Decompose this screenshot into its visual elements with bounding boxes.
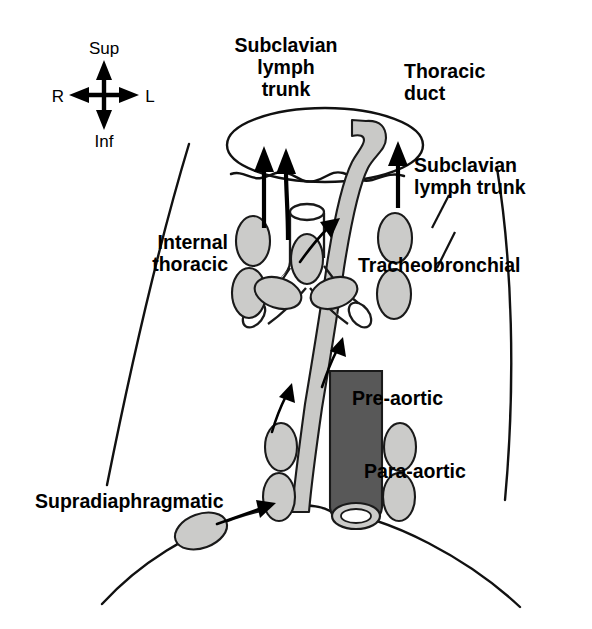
compass-inf-arrowhead [96,110,112,130]
bronchus-left-lumen [344,298,375,331]
leader-subclavian-right [432,195,449,228]
thoracic-inlet-wavy-line [231,172,404,181]
label-internal-thoracic-line2: thoracic [152,253,228,275]
label-thoracic-duct-line1: Thoracic [404,60,485,82]
label-subclavian-trunk-right-line2: lymph trunk [414,176,526,198]
trachea-lumen-top [290,204,324,220]
label-para-aortic: Para-aortic [364,460,466,482]
label-subclavian-trunk-top-line1: Subclavian [235,34,338,56]
flow-arrow-duct-ascend-lower-head [279,383,295,403]
orientation-compass: Sup Inf R L [52,39,155,151]
compass-label-superior: Sup [89,39,119,58]
aorta-lumen-inner [341,509,371,523]
thoracic-wall-right [107,144,189,485]
lymph-node-para-aortic-right-upper [265,423,297,471]
lymph-node-supradiaphragmatic [170,506,232,556]
label-supradiaphragmatic: Supradiaphragmatic [35,490,224,512]
label-thoracic-duct-line2: duct [404,82,446,104]
diaphragm-dome [102,506,520,607]
label-subclavian-trunk-top-line3: trunk [262,78,311,100]
compass-label-right: R [52,87,64,106]
lymph-node-carinal-superior [291,234,323,284]
label-tracheobronchial: Tracheobronchial [358,254,521,276]
thoracic-wall-left [497,168,511,500]
label-subclavian-trunk-top-line2: lymph [257,56,314,78]
flow-arrow-internal-thoracic-2-shaft [286,172,288,240]
compass-label-inferior: Inf [95,132,114,151]
compass-right-arrowhead [69,87,89,103]
flow-arrow-internal-thoracic-2-head [276,148,296,174]
lymph-node-tracheobronchial-lower-right [377,269,411,319]
compass-label-left: L [145,87,154,106]
label-internal-thoracic-line1: Internal [158,231,228,253]
flow-arrow-internal-thoracic-1-head [254,146,274,172]
thoracic-lymphatic-diagram: Sup Inf R L [0,0,592,629]
label-subclavian-trunk-right-line1: Subclavian [414,154,517,176]
lymph-node-para-aortic-right-lower [263,473,295,521]
compass-sup-arrowhead [96,60,112,80]
label-pre-aortic: Pre-aortic [352,387,443,409]
compass-left-arrowhead [119,87,139,103]
flow-arrow-subclavian-right-head [388,141,408,166]
